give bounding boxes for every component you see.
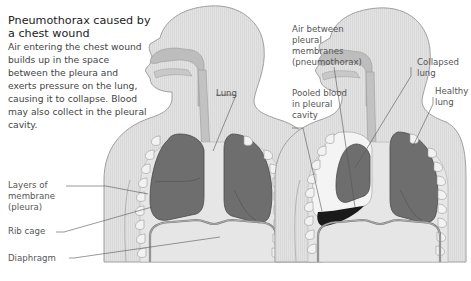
label-healthy-lung: Healthy lung <box>435 86 468 108</box>
label-pleura: Layers of membrane (pleura) <box>8 180 55 213</box>
label-collapsed-lung: Collapsed lung <box>417 57 459 79</box>
label-diaphragm: Diaphragm <box>8 253 56 264</box>
label-lung: Lung <box>216 88 237 99</box>
diagram-title: Pneumothorax caused by a chest wound <box>8 14 158 40</box>
diagram-description: Air entering the chest wound builds up i… <box>8 40 148 131</box>
label-pneumothorax-air: Air between pleural membranes (pneumotho… <box>292 24 362 68</box>
label-pooled-blood: Pooled blood in pleural cavity <box>292 88 347 121</box>
label-rib-cage: Rib cage <box>8 226 45 237</box>
